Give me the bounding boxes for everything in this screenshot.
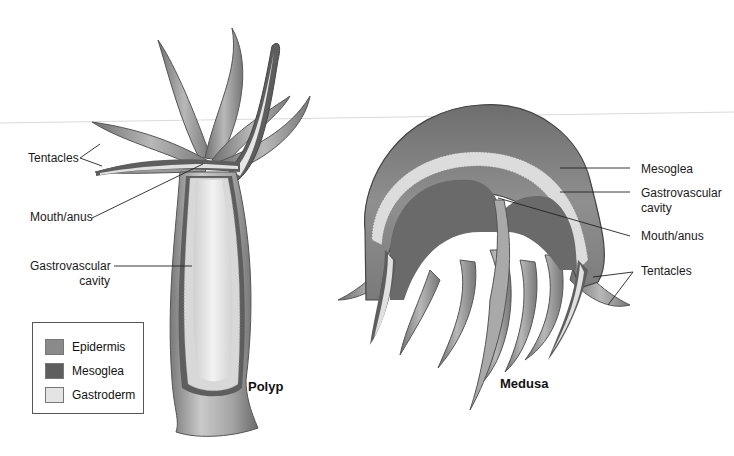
polyp-label-gastrovascular: Gastrovascular xyxy=(30,259,110,273)
legend-label: Epidermis xyxy=(72,340,125,354)
legend-item-epidermis: Epidermis xyxy=(45,339,125,355)
polyp-label-mouth-anus: Mouth/anus xyxy=(30,210,93,224)
medusa-label-mesoglea: Mesoglea xyxy=(641,162,693,176)
legend-label: Gastroderm xyxy=(72,388,135,402)
legend-item-gastroderm: Gastroderm xyxy=(45,387,135,403)
scan-line xyxy=(0,112,734,123)
mesoglea-swatch xyxy=(45,363,64,379)
medusa-drawing xyxy=(338,105,630,410)
polyp-title: Polyp xyxy=(248,379,283,394)
medusa-label-mouth-anus: Mouth/anus xyxy=(641,229,704,243)
tissue-legend: Epidermis Mesoglea Gastroderm xyxy=(32,322,144,414)
polyp-label-tentacles: Tentacles xyxy=(28,151,79,165)
cnidarian-body-plans-figure: Tentacles Mouth/anus Gastrovascular cavi… xyxy=(0,0,734,456)
medusa-label-tentacles: Tentacles xyxy=(641,264,692,278)
medusa-label-cavity: cavity xyxy=(641,201,672,215)
medusa-title: Medusa xyxy=(500,376,548,391)
medusa-label-gastrovascular: Gastrovascular xyxy=(641,186,722,200)
epidermis-swatch xyxy=(45,339,64,355)
polyp-label-cavity: cavity xyxy=(30,274,110,288)
legend-label: Mesoglea xyxy=(72,364,124,378)
gastroderm-swatch xyxy=(45,387,64,403)
legend-item-mesoglea: Mesoglea xyxy=(45,363,124,379)
